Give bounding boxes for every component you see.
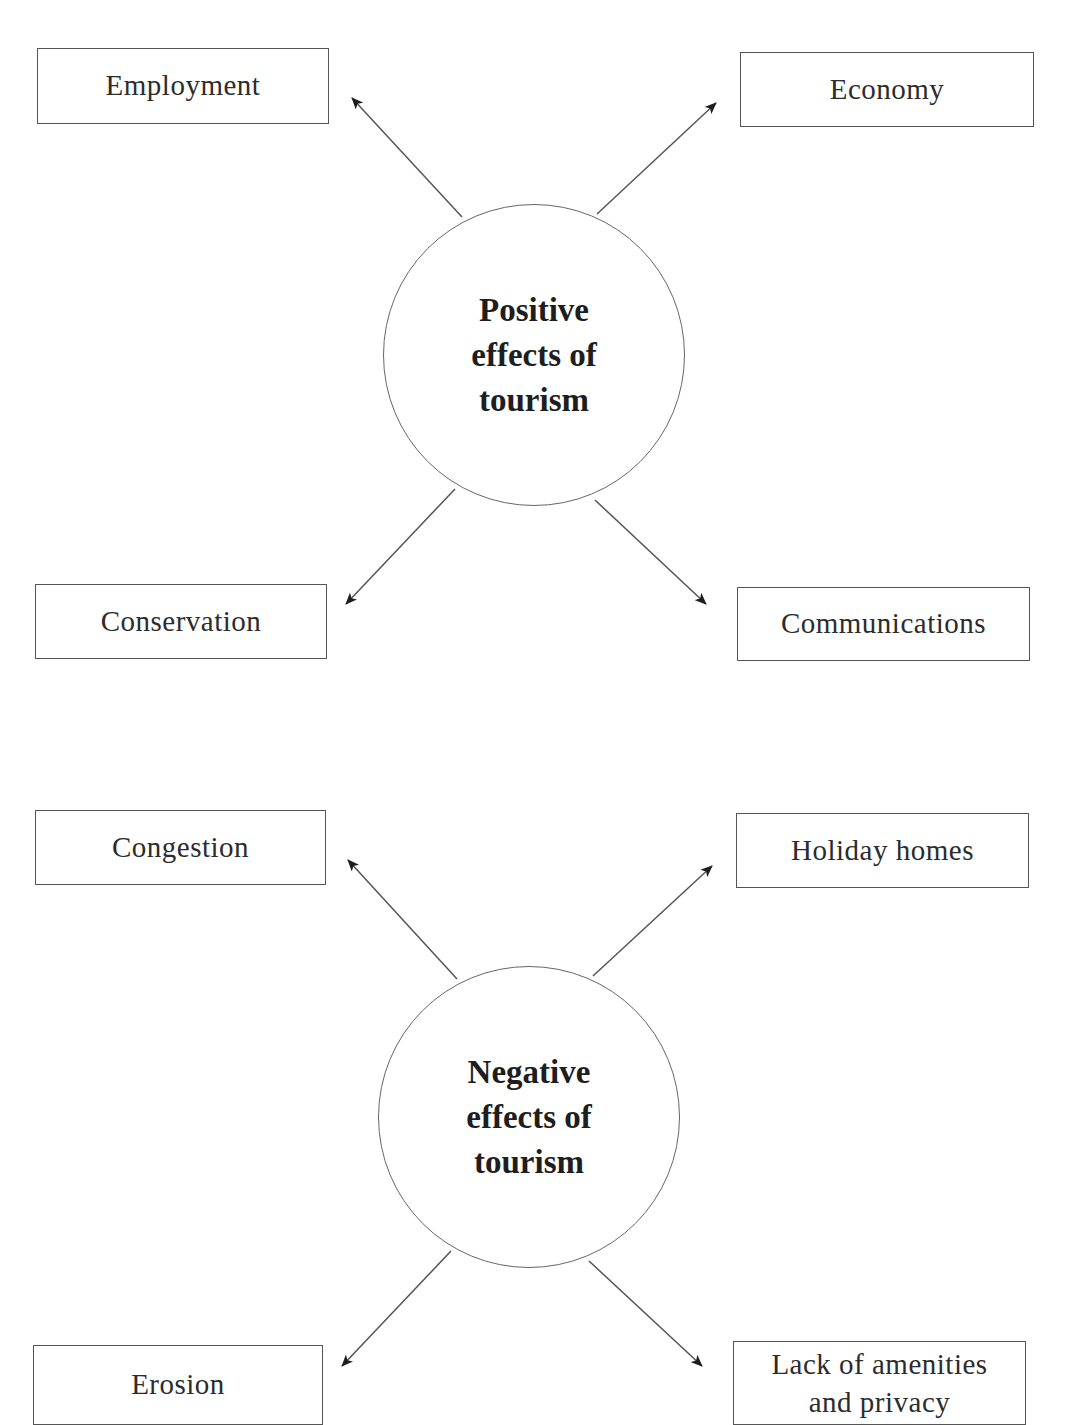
effect-box-lack-of-amenities: Lack of amenities and privacy (733, 1341, 1026, 1425)
arrow-to-holiday-homes (593, 866, 712, 976)
effect-box-erosion: Erosion (33, 1345, 323, 1425)
arrow-to-lack-of-amenities (589, 1261, 702, 1366)
hub-line: effects of (471, 333, 597, 378)
arrow-to-congestion (348, 860, 457, 979)
effect-label: Conservation (101, 603, 262, 641)
hub-line: tourism (474, 1140, 584, 1185)
effect-box-employment: Employment (37, 48, 329, 124)
effect-box-holiday-homes: Holiday homes (736, 813, 1029, 888)
effect-label: Holiday homes (791, 832, 974, 870)
hub-line: Positive (479, 288, 589, 333)
effect-label: Lack of amenities and privacy (764, 1346, 995, 1421)
hub-line: tourism (479, 378, 589, 423)
effect-label: Congestion (112, 829, 249, 867)
arrow-to-conservation (346, 489, 455, 604)
arrow-to-erosion (342, 1251, 451, 1366)
effect-label: Economy (830, 71, 945, 109)
positive-effects-hub: Positive effects of tourism (383, 204, 685, 506)
effect-label: Communications (781, 605, 986, 643)
hub-line: effects of (466, 1095, 592, 1140)
arrow-to-communications (595, 500, 706, 604)
effect-label: Employment (106, 67, 261, 105)
hub-line: Negative (468, 1050, 591, 1095)
effect-box-conservation: Conservation (35, 584, 327, 659)
effect-box-economy: Economy (740, 52, 1034, 127)
effect-box-communications: Communications (737, 587, 1030, 661)
arrow-to-employment (352, 98, 462, 217)
arrow-to-economy (597, 103, 716, 214)
effect-box-congestion: Congestion (35, 810, 326, 885)
negative-effects-hub: Negative effects of tourism (378, 966, 680, 1268)
effect-label: Erosion (131, 1366, 225, 1404)
